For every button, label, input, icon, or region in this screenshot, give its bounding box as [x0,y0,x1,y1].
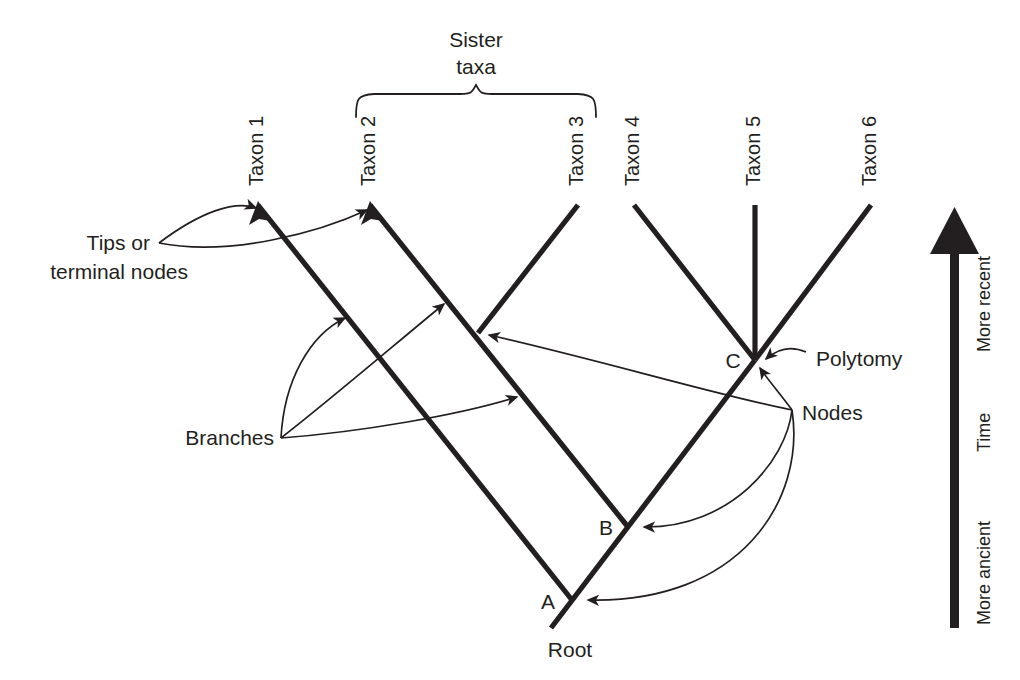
branches-arrow-1 [281,318,345,438]
node-b-label: B [599,516,613,539]
time-axis-middle-label: Time [974,413,994,452]
brace-path [356,85,596,117]
taxon-1-label: Taxon 1 [245,116,267,186]
branch-polytomy-stem [551,360,755,628]
time-axis-arrowhead-icon [930,207,979,254]
taxon-2-label: Taxon 2 [357,116,379,186]
nodes-callout-arrows [489,335,794,600]
phylogenetic-tree-figure: Sister taxa Taxon 1 Taxon 2 Taxon 3 Taxo… [0,0,1020,680]
time-axis-labels: More recent Time More ancient [974,256,994,625]
time-axis-shaft [950,240,959,628]
sister-taxa-label-line2: taxa [456,55,496,78]
nodes-arrow-to-node-b [644,410,792,527]
polytomy-arrow [766,349,806,359]
branch-taxon-2 [370,205,628,527]
tips-label-line2: terminal nodes [50,260,188,283]
tip-arrowhead-taxon-1 [249,201,271,225]
branch-taxon-3 [478,205,578,333]
taxon-labels: Taxon 1 Taxon 2 Taxon 3 Taxon 4 Taxon 5 … [245,116,880,186]
node-a-label: A [541,590,555,613]
taxon-6-label: Taxon 6 [858,116,880,186]
time-axis-arrow [930,207,979,628]
branches-callout-arrows [281,304,517,438]
taxon-4-label: Taxon 4 [621,116,643,186]
tips-arrow-to-taxon-1 [159,206,256,243]
polytomy-label: Polytomy [816,347,903,370]
polytomy-callout-arrow [766,349,806,359]
tree-branches [258,205,871,628]
branch-taxon-6 [755,205,871,360]
root-label: Root [548,638,593,661]
taxon-5-label: Taxon 5 [742,116,764,186]
node-c-label: C [725,349,740,372]
nodes-label: Nodes [802,401,863,424]
time-axis-top-label: More recent [974,256,994,352]
branches-label: Branches [185,426,274,449]
sister-taxa-brace [356,85,596,117]
tree-canvas: Sister taxa Taxon 1 Taxon 2 Taxon 3 Taxo… [0,0,1020,680]
taxon-3-label: Taxon 3 [565,116,587,186]
branch-taxon-4 [634,205,755,360]
time-axis-bottom-label: More ancient [974,521,994,625]
tips-label-line1: Tips or [87,231,150,254]
branches-arrow-3 [281,397,517,438]
sister-taxa-label-line1: Sister [449,28,503,51]
branches-arrow-2 [281,304,444,438]
nodes-arrow-to-node-a [588,410,794,600]
